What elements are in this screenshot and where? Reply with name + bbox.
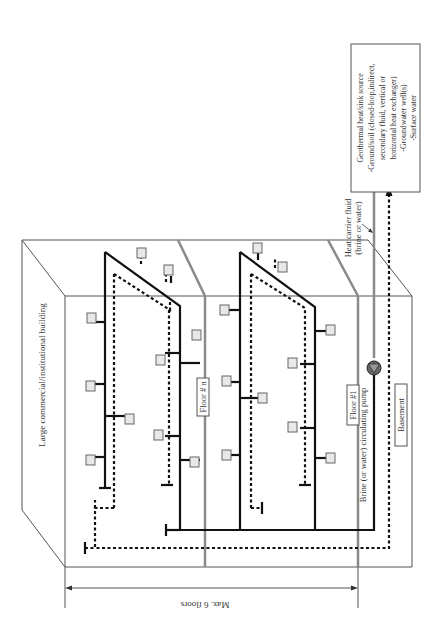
circulating-pump-icon <box>367 361 381 375</box>
terminal-unit-icon <box>125 414 134 424</box>
building-label: Large commercial/institutional building <box>37 303 47 447</box>
floor-n-label: Floor # n <box>198 381 208 413</box>
terminal-unit-icon <box>137 248 146 258</box>
heat-carrier-label-line2: (brine or water) <box>353 201 363 255</box>
floor-n-piping <box>95 252 200 530</box>
terminal-unit-icon <box>220 305 229 315</box>
terminal-unit-icon <box>258 393 267 403</box>
terminal-unit-icon <box>278 262 287 272</box>
terminal-unit-icon <box>164 265 173 275</box>
terminal-unit-icon <box>86 455 95 465</box>
terminal-unit-icon <box>288 422 297 432</box>
terminal-unit-icon <box>222 450 231 460</box>
terminal-unit-icon <box>86 381 95 391</box>
terminal-unit-icon <box>288 358 297 368</box>
terminal-unit-icon <box>326 325 335 335</box>
source-line-4: horizontal heat exchanger) <box>389 76 398 160</box>
terminal-unit-icon <box>253 243 262 253</box>
pump-label: Brine (or water) circulating pump <box>358 388 368 503</box>
floor-1-piping <box>225 250 330 530</box>
source-line-6: -Surface water <box>409 95 418 141</box>
terminal-unit-icon <box>156 355 165 365</box>
heat-carrier-label-line1: Heat carrier fluid <box>343 198 353 257</box>
terminal-unit-icon <box>192 330 201 340</box>
terminal-unit-icon <box>87 313 96 323</box>
source-line-1: Geothermal heat/sink source <box>356 73 365 163</box>
source-line-3: secondary fluid, vertical or <box>378 76 387 160</box>
dimension-label: Max. 6 floors <box>180 600 229 610</box>
terminal-unit-icon <box>326 453 335 463</box>
floor-1-units <box>220 243 335 463</box>
basement-label: Basement <box>396 398 406 432</box>
geothermal-system-diagram: Max. 6 floors Large commercial/instituti… <box>0 0 438 634</box>
terminal-unit-icon <box>154 430 163 440</box>
floor-1-label: Floor #1 <box>348 390 358 419</box>
source-line-5: -Groundwater well(s) <box>399 84 408 152</box>
terminal-unit-icon <box>190 457 199 467</box>
source-line-2: -Ground/soil (closed-loop,indirect, <box>367 64 376 173</box>
terminal-unit-icon <box>222 376 231 386</box>
